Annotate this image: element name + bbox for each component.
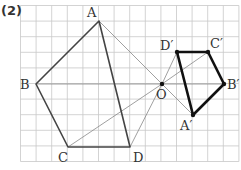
label-D': D′: [160, 38, 173, 53]
label-O: O: [156, 87, 167, 102]
label-B': B′: [227, 77, 240, 92]
label-A': A′: [179, 118, 192, 133]
point-D': [175, 50, 179, 54]
construction-line-O-C: [68, 84, 162, 147]
point-A': [191, 113, 195, 117]
problem-number: (2): [1, 3, 22, 18]
label-B: B: [20, 77, 30, 92]
label-A: A: [86, 5, 97, 20]
label-D: D: [133, 150, 143, 165]
center-point-O: [160, 82, 164, 86]
label-C: C: [58, 150, 68, 165]
diagram-root: ABCDA′B′C′D′O (2): [0, 0, 241, 170]
rotation-diagram: ABCDA′B′C′D′O (2): [0, 0, 241, 170]
grid: [21, 6, 239, 162]
label-C': C′: [210, 36, 223, 51]
point-B': [222, 82, 226, 86]
